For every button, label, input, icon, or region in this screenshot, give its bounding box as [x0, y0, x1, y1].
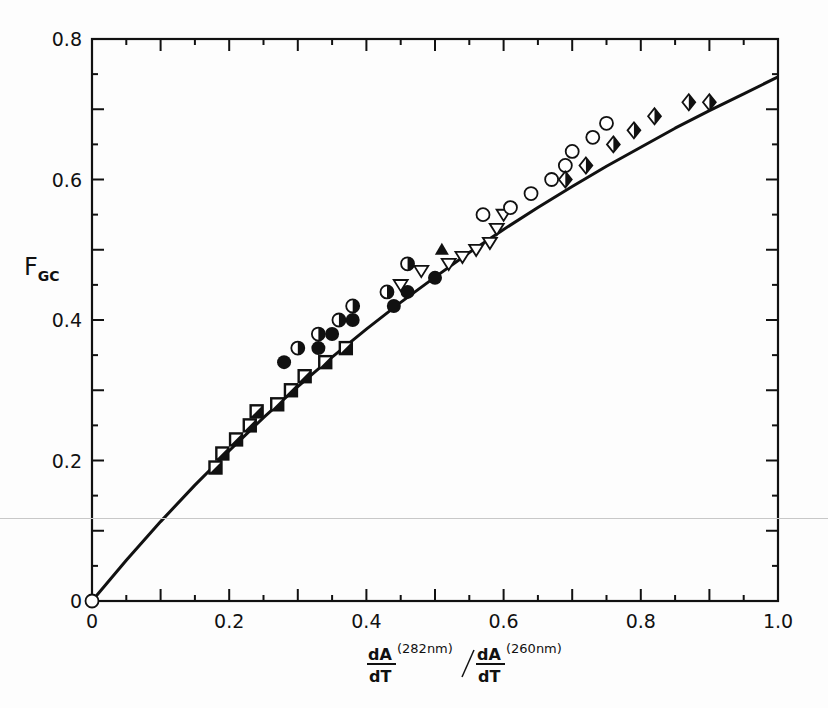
data-point-half-diamond — [628, 122, 641, 138]
y-axis-label: FGC — [24, 253, 60, 284]
data-point-open-circle — [525, 187, 538, 200]
data-point-open-circle — [586, 131, 599, 144]
filled-circle-marker — [387, 299, 401, 313]
open-circle-marker — [525, 187, 538, 200]
axis-labels: FGC dA dT (282nm) dA dT (260nm) — [24, 253, 562, 686]
data-point-half-diamond — [607, 136, 620, 152]
data-point-open-circle — [504, 201, 517, 214]
data-point-half-diamond — [580, 157, 593, 173]
x-tick-label: 0.4 — [351, 610, 381, 632]
data-point-filled-circle — [325, 327, 339, 341]
plot-border — [92, 39, 778, 601]
data-points — [86, 94, 716, 607]
open-triangle-marker — [414, 266, 428, 277]
svg-text:dA: dA — [368, 645, 392, 664]
open-circle-marker — [559, 159, 572, 172]
open-circle-marker — [504, 201, 517, 214]
open-circle-marker — [477, 208, 490, 221]
plot-frame — [92, 39, 778, 601]
svg-text:(260nm): (260nm) — [506, 641, 562, 656]
data-point-half-square — [285, 384, 297, 396]
data-point-filled-circle — [387, 299, 401, 313]
data-point-half-circle — [332, 314, 345, 327]
data-point-half-square — [340, 342, 352, 354]
x-tick-label: 0.6 — [488, 610, 518, 632]
data-point-half-square — [244, 419, 256, 431]
data-point-half-diamond — [559, 172, 572, 188]
half-diamond-fill — [565, 172, 571, 188]
x-tick-label: 0.8 — [626, 610, 656, 632]
x-axis-label: dA dT (282nm) dA dT (260nm) — [367, 641, 562, 686]
y-tick-label: 0.4 — [52, 309, 82, 331]
open-circle-marker — [586, 131, 599, 144]
filled-circle-marker — [428, 271, 442, 285]
svg-text:dA: dA — [477, 645, 501, 664]
data-point-half-circle — [346, 299, 359, 312]
data-point-open-triangle-down — [414, 266, 428, 277]
data-point-half-circle — [312, 328, 325, 341]
x-tick-label: 1.0 — [763, 610, 793, 632]
data-point-half-circle — [380, 285, 393, 298]
data-point-half-diamond — [682, 94, 695, 110]
half-diamond-fill — [689, 94, 695, 110]
data-point-half-square — [230, 433, 242, 445]
half-diamond-fill — [586, 157, 592, 173]
filled-circle-marker — [311, 341, 325, 355]
filled-circle-marker — [277, 355, 291, 369]
half-diamond-fill — [613, 136, 619, 152]
data-point-half-circle — [401, 257, 414, 270]
half-diamond-fill — [655, 108, 661, 124]
data-point-filled-circle — [346, 313, 360, 327]
scan-artifact-line — [0, 518, 828, 519]
open-circle-marker — [600, 117, 613, 130]
data-point-open-circle — [477, 208, 490, 221]
axis-tick-labels: 00.20.40.60.81.000.20.40.60.8 — [52, 28, 793, 632]
filled-circle-marker — [346, 313, 360, 327]
data-point-filled-triangle — [435, 243, 449, 255]
y-tick-label: 0 — [70, 590, 82, 612]
fit-curve — [92, 77, 778, 601]
data-point-open-circle — [566, 145, 579, 158]
open-circle-marker — [545, 173, 558, 186]
filled-circle-marker — [325, 327, 339, 341]
data-point-half-circle — [291, 342, 304, 355]
data-point-open-circle — [559, 159, 572, 172]
data-point-open-circle — [86, 595, 99, 608]
data-point-half-square — [209, 462, 221, 474]
data-point-filled-circle — [311, 341, 325, 355]
data-point-half-square — [251, 405, 263, 417]
open-circle-marker — [566, 145, 579, 158]
fit-curve-line — [92, 77, 778, 601]
data-point-filled-circle — [277, 355, 291, 369]
data-point-half-square — [271, 398, 283, 410]
data-point-open-circle — [545, 173, 558, 186]
x-tick-label: 0 — [86, 610, 98, 632]
svg-text:(282nm): (282nm) — [397, 641, 453, 656]
axis-ticks — [92, 39, 778, 601]
data-point-half-diamond — [648, 108, 661, 124]
data-point-half-square — [216, 447, 228, 459]
data-point-filled-circle — [428, 271, 442, 285]
y-tick-label: 0.6 — [52, 169, 82, 191]
chart: 00.20.40.60.81.000.20.40.60.8 FGC dA dT … — [0, 0, 828, 708]
y-tick-label: 0.2 — [52, 450, 82, 472]
half-diamond-fill — [634, 122, 640, 138]
data-point-half-square — [299, 370, 311, 382]
svg-text:dT: dT — [478, 667, 500, 686]
open-circle-marker — [86, 595, 99, 608]
data-point-open-circle — [600, 117, 613, 130]
svg-text:dT: dT — [369, 667, 391, 686]
filled-triangle-marker — [435, 243, 449, 255]
data-point-half-square — [319, 356, 331, 368]
x-tick-label: 0.2 — [214, 610, 244, 632]
y-tick-label: 0.8 — [52, 28, 82, 50]
